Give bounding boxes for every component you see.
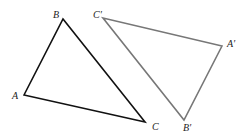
label-a: A [11,90,19,101]
triangle-abc-prime [103,18,222,120]
label-a-prime: A′ [226,38,236,49]
label-b: B [53,9,59,20]
label-c: C [152,121,159,132]
triangle-abc [24,19,145,122]
triangles-diagram: A B C A′ B′ C′ [0,0,248,138]
label-c-prime: C′ [93,9,103,20]
label-b-prime: B′ [183,122,192,133]
